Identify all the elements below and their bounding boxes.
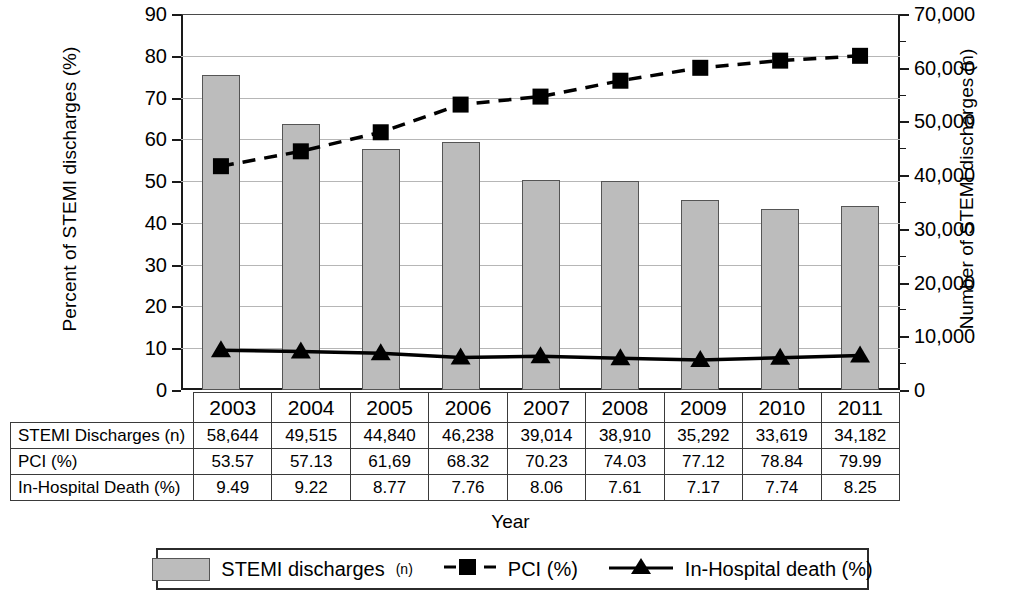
pci-marker-square	[772, 53, 788, 69]
y-tick-label-left: 50	[145, 170, 167, 193]
pci-marker-square	[533, 89, 549, 105]
pci-marker-square	[612, 73, 628, 89]
table-header-year: 2003	[194, 393, 272, 423]
x-axis-title: Year	[0, 511, 1021, 533]
y-tick-right-minor	[900, 309, 906, 310]
plot-area: 0102030405060708090 010,00020,00030,0004…	[181, 14, 900, 390]
y-tick-left	[172, 265, 181, 267]
legend-item-stemi-discharges: STEMI discharges (n)	[152, 558, 413, 581]
table-row-label: STEMI Discharges (n)	[11, 423, 194, 449]
legend-dashed-square-icon	[443, 557, 497, 582]
y-tick-right	[900, 229, 909, 231]
y-tick-right	[900, 121, 909, 123]
y-tick-label-left: 60	[145, 128, 167, 151]
y-tick-left	[172, 181, 181, 183]
y-tick-right	[900, 68, 909, 70]
table-cell: 70.23	[507, 449, 585, 475]
pci-marker-square	[293, 143, 309, 159]
table-row: In-Hospital Death (%)9.499.228.777.768.0…	[11, 475, 900, 501]
table-header-year: 2007	[507, 393, 585, 423]
line-series-layer	[181, 14, 900, 390]
table-header-year: 2004	[272, 393, 350, 423]
y-axis-left-title: Percent of STEMI discharges (%)	[59, 24, 81, 354]
table-cell: 74.03	[586, 449, 664, 475]
data-table: 200320042005200620072008200920102011STEM…	[10, 392, 900, 501]
table-cell: 39,014	[507, 423, 585, 449]
legend-label-stemi-discharges: STEMI discharges	[221, 558, 384, 581]
pci-marker-square	[692, 60, 708, 76]
table-header-year: 2006	[429, 393, 507, 423]
y-tick-right-minor	[900, 41, 906, 42]
y-tick-right-minor	[900, 95, 906, 96]
table-cell: 38,910	[586, 423, 664, 449]
y-tick-left	[172, 14, 181, 16]
table-cell: 8.06	[507, 475, 585, 501]
table-cell: 9.22	[272, 475, 350, 501]
y-tick-right	[900, 336, 909, 338]
table-cell: 44,840	[350, 423, 428, 449]
legend-bar-swatch-icon	[152, 558, 210, 581]
table-cell: 35,292	[664, 423, 742, 449]
table-cell: 8.25	[821, 475, 900, 501]
table-cell: 7.74	[743, 475, 821, 501]
pci-marker-square	[373, 124, 389, 140]
table-cell: 77.12	[664, 449, 742, 475]
y-tick-left	[172, 98, 181, 100]
table-header-year: 2009	[664, 393, 742, 423]
table-cell: 7.61	[586, 475, 664, 501]
y-tick-label-left: 80	[145, 44, 167, 67]
y-tick-label-left: 90	[145, 3, 167, 26]
pci-marker-square	[213, 158, 229, 174]
legend-item-pci: PCI (%)	[443, 557, 578, 582]
chart-root: Percent of STEMI discharges (%) Number o…	[0, 0, 1021, 607]
table-row-label: PCI (%)	[11, 449, 194, 475]
y-tick-left	[172, 139, 181, 141]
y-tick-label-right: 0	[914, 379, 925, 402]
y-tick-right	[900, 283, 909, 285]
table-cell: 58,644	[194, 423, 272, 449]
y-tick-label-left: 40	[145, 211, 167, 234]
y-tick-left	[172, 56, 181, 58]
legend-label-stemi-discharges-unit: (n)	[396, 561, 413, 577]
table-header-year: 2011	[821, 393, 900, 423]
table-header-blank-cell	[11, 393, 194, 423]
table-cell: 53.57	[194, 449, 272, 475]
y-tick-label-right: 30,000	[914, 217, 975, 240]
y-tick-label-left: 10	[145, 337, 167, 360]
table-cell: 9.49	[194, 475, 272, 501]
table-row: STEMI Discharges (n)58,64449,51544,84046…	[11, 423, 900, 449]
table-cell: 79.99	[821, 449, 900, 475]
chart-legend: STEMI discharges (n) PCI (%) In-Hospital…	[156, 548, 869, 590]
y-tick-right-minor	[900, 256, 906, 257]
y-tick-right	[900, 390, 909, 392]
y-tick-right-minor	[900, 202, 906, 203]
legend-label-pci: PCI (%)	[508, 558, 578, 581]
y-tick-label-right: 60,000	[914, 56, 975, 79]
table-row-label: In-Hospital Death (%)	[11, 475, 194, 501]
table-cell: 34,182	[821, 423, 900, 449]
y-tick-label-left: 20	[145, 295, 167, 318]
y-tick-left	[172, 348, 181, 350]
table-header-year: 2008	[586, 393, 664, 423]
y-tick-label-right: 50,000	[914, 110, 975, 133]
pci-marker-square	[453, 97, 469, 113]
table-cell: 8.77	[350, 475, 428, 501]
pci-marker-square	[852, 48, 868, 64]
table-header-row: 200320042005200620072008200920102011	[11, 393, 900, 423]
y-tick-right	[900, 14, 909, 16]
y-tick-label-right: 10,000	[914, 325, 975, 348]
y-tick-label-right: 40,000	[914, 164, 975, 187]
y-tick-label-right: 20,000	[914, 271, 975, 294]
table-cell: 61,69	[350, 449, 428, 475]
legend-item-inhospital-death: In-Hospital death (%)	[608, 557, 873, 582]
table-cell: 7.17	[664, 475, 742, 501]
table-header-year: 2005	[350, 393, 428, 423]
table-cell: 46,238	[429, 423, 507, 449]
y-tick-right	[900, 175, 909, 177]
table-cell: 78.84	[743, 449, 821, 475]
y-tick-label-left: 70	[145, 86, 167, 109]
table-cell: 7.76	[429, 475, 507, 501]
table-cell: 33,619	[743, 423, 821, 449]
table-cell: 68.32	[429, 449, 507, 475]
table-row: PCI (%)53.5757.1361,6968.3270.2374.0377.…	[11, 449, 900, 475]
